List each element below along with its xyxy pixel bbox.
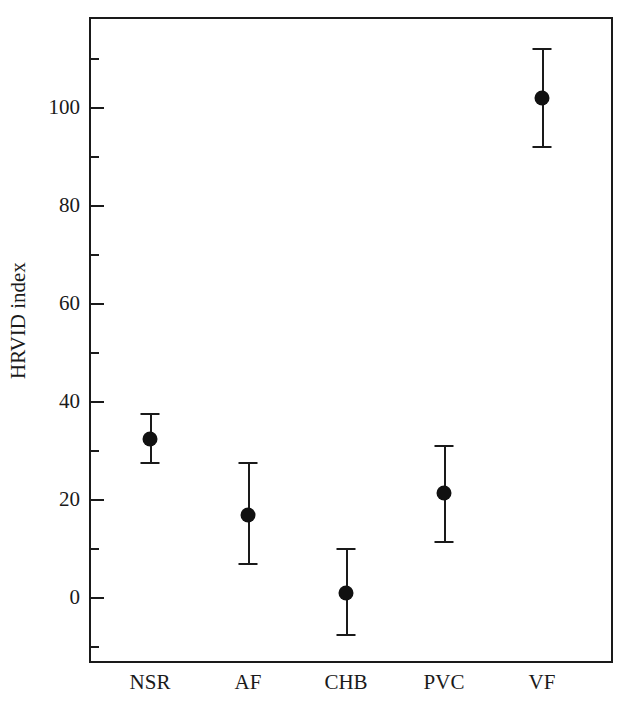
y-tick-label: 60 (0, 293, 80, 314)
error-bar-cap-upper (533, 48, 552, 50)
data-point-marker (241, 507, 256, 522)
data-point-marker (143, 431, 158, 446)
y-tick-minor (89, 352, 99, 354)
y-tick-label: 100 (0, 97, 80, 118)
y-tick-minor (89, 156, 99, 158)
x-tick-label: AF (235, 672, 262, 693)
y-axis-title: HRVID index (8, 241, 29, 401)
y-tick-label: 20 (0, 489, 80, 510)
y-tick-major (89, 303, 104, 305)
x-tick-label: VF (529, 672, 556, 693)
x-tick-label: CHB (324, 672, 367, 693)
x-tick-label: PVC (424, 672, 465, 693)
error-bar-cap-upper (435, 445, 454, 447)
plot-area-frame (89, 17, 613, 663)
x-tick-label: NSR (130, 672, 171, 693)
figure-errorbar-chart: HRVID index 020406080100 NSRAFCHBPVCVF (0, 0, 638, 723)
y-tick-major (89, 499, 104, 501)
data-point-marker (437, 485, 452, 500)
data-point-marker (339, 586, 354, 601)
y-tick-label: 40 (0, 391, 80, 412)
error-bar-cap-upper (337, 548, 356, 550)
error-bar-cap-lower (239, 563, 258, 565)
y-tick-label: 80 (0, 195, 80, 216)
error-bar-cap-upper (239, 462, 258, 464)
y-tick-major (89, 401, 104, 403)
y-tick-label: 0 (0, 587, 80, 608)
y-tick-minor (89, 548, 99, 550)
y-tick-minor (89, 58, 99, 60)
y-tick-major (89, 107, 104, 109)
error-bar-cap-lower (141, 462, 160, 464)
data-point-marker (535, 91, 550, 106)
error-bar-cap-lower (533, 146, 552, 148)
y-tick-major (89, 597, 104, 599)
error-bar-cap-lower (435, 541, 454, 543)
error-bar-cap-lower (337, 634, 356, 636)
y-tick-minor (89, 450, 99, 452)
error-bar-cap-upper (141, 413, 160, 415)
y-tick-major (89, 205, 104, 207)
y-tick-minor (89, 646, 99, 648)
y-tick-minor (89, 254, 99, 256)
